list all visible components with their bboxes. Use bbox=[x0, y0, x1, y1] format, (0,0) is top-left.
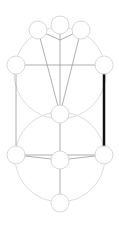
node-bottom bbox=[51, 194, 69, 212]
node-low-center bbox=[51, 151, 69, 169]
node-mid-right bbox=[95, 56, 113, 74]
graph-diagram bbox=[0, 0, 119, 226]
node-low-right bbox=[95, 146, 113, 164]
node-mid-left bbox=[7, 56, 25, 74]
node-top-left bbox=[29, 21, 47, 39]
node-top-right bbox=[72, 21, 90, 39]
node-low-left bbox=[7, 146, 25, 164]
edge bbox=[60, 30, 81, 114]
node-center bbox=[51, 105, 69, 123]
node-top-center bbox=[51, 16, 69, 34]
edge bbox=[38, 30, 60, 114]
